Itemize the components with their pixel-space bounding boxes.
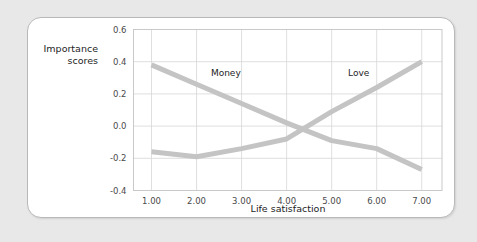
figure-root: 0.60.40.20.0-0.2-0.41.002.003.004.005.00…	[0, 0, 477, 242]
chart-card	[27, 17, 455, 218]
